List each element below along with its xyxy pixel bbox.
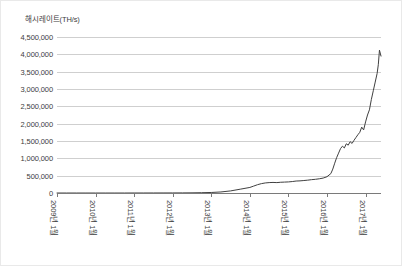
series-line-hashrate: [57, 37, 381, 193]
y-axis-tick-label: 1,000,000: [21, 154, 53, 163]
y-axis-tick-label: 2,500,000: [21, 102, 53, 111]
x-axis-tick-mark: [250, 193, 251, 197]
x-axis-tick-label: 2015년 1월: [280, 200, 291, 236]
y-axis-tick-label: 3,000,000: [21, 85, 53, 94]
plot-area: [57, 37, 381, 193]
x-axis-tick-mark: [96, 193, 97, 197]
hashrate-polyline: [57, 50, 381, 193]
x-axis-line: [57, 193, 381, 194]
x-axis-tick-mark: [57, 193, 58, 197]
x-axis-tick-mark: [173, 193, 174, 197]
y-axis-tick-label: 2,000,000: [21, 119, 53, 128]
y-axis-tick-label: 0: [49, 189, 53, 198]
y-axis-tick-label: 4,500,000: [21, 33, 53, 42]
x-axis-tick-label: 2010년 1월: [88, 200, 99, 236]
x-axis-tick-mark: [327, 193, 328, 197]
x-axis-tick-mark: [366, 193, 367, 197]
x-axis-tick-label: 2009년 1월: [49, 200, 60, 236]
x-axis-tick-label: 2011년 1월: [126, 200, 137, 236]
x-axis-tick-label: 2012년 1월: [165, 200, 176, 236]
hashrate-chart-figure: 해시레이트(TH/s) 0500,0001,000,0001,500,0002,…: [0, 0, 402, 266]
x-axis-tick-label: 2017년 1월: [358, 200, 369, 236]
y-axis-tick-labels: 0500,0001,000,0001,500,0002,000,0002,500…: [1, 1, 53, 266]
x-axis-tick-label: 2013년 1월: [203, 200, 214, 236]
x-axis-tick-mark: [211, 193, 212, 197]
y-axis-tick-label: 4,000,000: [21, 50, 53, 59]
y-axis-tick-label: 500,000: [27, 171, 53, 180]
x-axis-tick-mark: [288, 193, 289, 197]
x-axis-tick-mark: [134, 193, 135, 197]
x-axis-tick-label: 2016년 1월: [319, 200, 330, 236]
y-axis-tick-label: 3,500,000: [21, 67, 53, 76]
x-axis-tick-label: 2014년 1월: [242, 200, 253, 236]
y-axis-tick-label: 1,500,000: [21, 137, 53, 146]
